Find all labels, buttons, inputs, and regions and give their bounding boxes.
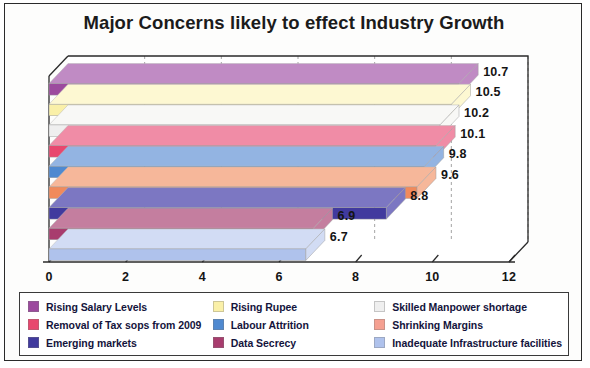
chart-frame: Major Concerns likely to effect Industry… — [4, 3, 582, 361]
bar-chart-svg — [37, 36, 545, 284]
legend-color-swatch — [374, 319, 385, 330]
legend-item[interactable]: Removal of Tax sops from 2009 — [28, 316, 213, 333]
x-tick-label: 12 — [502, 270, 516, 284]
legend-item-label: Inadequate Infrastructure facilities — [392, 337, 562, 349]
legend-color-swatch — [28, 337, 39, 348]
chart-legend: Rising Salary LevelsRemoval of Tax sops … — [19, 292, 569, 356]
x-tick-label: 10 — [425, 270, 439, 284]
bar-value-label: 10.5 — [476, 85, 501, 99]
legend-item-label: Rising Rupee — [231, 301, 298, 313]
legend-item[interactable]: Emerging markets — [28, 334, 213, 351]
legend-color-swatch — [213, 337, 224, 348]
legend-item[interactable]: Data Secrecy — [213, 334, 375, 351]
legend-column-3: Skilled Manpower shortageShrinking Margi… — [374, 298, 562, 351]
legend-color-swatch — [28, 319, 39, 330]
bar-value-label: 10.1 — [460, 127, 485, 141]
bar-value-label: 9.6 — [441, 168, 459, 182]
bar-value-label: 6.9 — [338, 209, 356, 223]
legend-item[interactable]: Labour Attrition — [213, 316, 375, 333]
x-tick-label: 2 — [122, 270, 129, 284]
chart-title: Major Concerns likely to effect Industry… — [5, 12, 583, 34]
legend-color-swatch — [28, 301, 39, 312]
legend-item-label: Removal of Tax sops from 2009 — [46, 319, 201, 331]
legend-item-label: Skilled Manpower shortage — [392, 301, 527, 313]
legend-item-label: Emerging markets — [46, 337, 137, 349]
bar-value-label: 8.8 — [410, 189, 428, 203]
legend-item-label: Labour Attrition — [231, 319, 309, 331]
legend-column-1: Rising Salary LevelsRemoval of Tax sops … — [28, 298, 213, 351]
legend-column-2: Rising RupeeLabour AttritionData Secrecy — [213, 298, 375, 351]
legend-item-label: Rising Salary Levels — [46, 301, 147, 313]
legend-color-swatch — [374, 301, 385, 312]
legend-item[interactable]: Skilled Manpower shortage — [374, 298, 562, 315]
legend-item[interactable]: Rising Salary Levels — [28, 298, 213, 315]
x-tick-label: 6 — [275, 270, 282, 284]
x-tick-label: 0 — [45, 270, 52, 284]
legend-color-swatch — [213, 301, 224, 312]
legend-item[interactable]: Rising Rupee — [213, 298, 375, 315]
bar-value-label: 6.7 — [330, 230, 348, 244]
bar-value-label: 10.2 — [464, 106, 489, 120]
x-tick-label: 4 — [199, 270, 206, 284]
legend-item-label: Data Secrecy — [231, 337, 296, 349]
legend-item-label: Shrinking Margins — [392, 319, 483, 331]
bar-value-label: 10.7 — [483, 65, 508, 79]
legend-item[interactable]: Inadequate Infrastructure facilities — [374, 334, 562, 351]
legend-color-swatch — [374, 337, 385, 348]
legend-color-swatch — [213, 319, 224, 330]
x-tick-label: 8 — [352, 270, 359, 284]
legend-item[interactable]: Shrinking Margins — [374, 316, 562, 333]
bar-value-label: 9.8 — [449, 147, 467, 161]
bar-8 — [49, 229, 325, 261]
plot-area: 10.710.510.210.19.89.68.86.96.7 02468101… — [37, 36, 545, 284]
